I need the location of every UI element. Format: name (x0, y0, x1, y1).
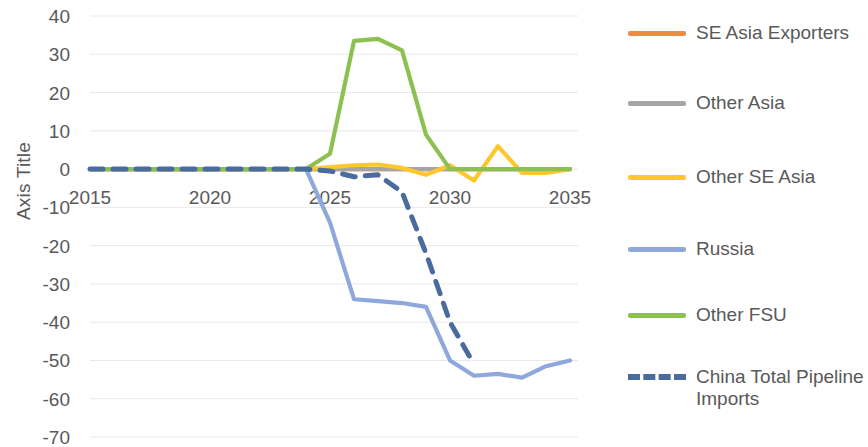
legend-swatch-icon (628, 238, 686, 260)
legend-item-label: Russia (696, 238, 754, 260)
legend-item[interactable]: China Total Pipeline Imports (628, 366, 868, 411)
legend-swatch-icon (628, 166, 686, 188)
legend-item-label: Other SE Asia (696, 166, 815, 188)
legend-swatch-icon (628, 304, 686, 326)
plot-area (78, 0, 582, 447)
legend-swatch-icon (628, 22, 686, 44)
plot-svg (78, 0, 582, 447)
legend-item-label: Other FSU (696, 304, 787, 326)
legend-item[interactable]: Other Asia (628, 92, 868, 114)
legend-item[interactable]: Other SE Asia (628, 166, 868, 188)
legend-swatch-icon (628, 366, 686, 388)
legend-item[interactable]: Other FSU (628, 304, 868, 326)
legend-item-label: SE Asia Exporters (696, 22, 849, 44)
legend-swatch-icon (628, 92, 686, 114)
legend-item-label: Other Asia (696, 92, 785, 114)
chart-legend: SE Asia ExportersOther AsiaOther SE Asia… (628, 0, 868, 447)
legend-item[interactable]: Russia (628, 238, 868, 260)
series-line (90, 169, 570, 378)
legend-item-label: China Total Pipeline Imports (696, 366, 868, 411)
series-line (90, 169, 474, 364)
chart-container: Axis Title 403020100-10-20-30-40-50-60-7… (0, 0, 868, 447)
legend-item[interactable]: SE Asia Exporters (628, 22, 868, 44)
